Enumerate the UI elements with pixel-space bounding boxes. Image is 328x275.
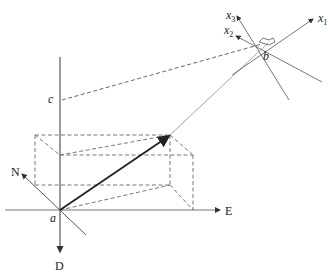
north-axis (22, 174, 86, 235)
c-to-b-line (62, 44, 262, 100)
sight-line (170, 43, 268, 135)
point-c-label: c (48, 93, 53, 105)
local-frame (232, 16, 322, 100)
north-label: N (11, 166, 20, 178)
down-label: D (55, 260, 64, 272)
position-vector (60, 136, 169, 210)
point-b-label: b (263, 50, 269, 62)
x3-label: x3 (226, 9, 235, 24)
east-label: E (225, 205, 232, 217)
origin-a-label: a (50, 212, 56, 224)
x1-label: x1 (318, 12, 327, 27)
diagram-canvas (0, 0, 328, 275)
x2-label: x2 (224, 24, 233, 39)
